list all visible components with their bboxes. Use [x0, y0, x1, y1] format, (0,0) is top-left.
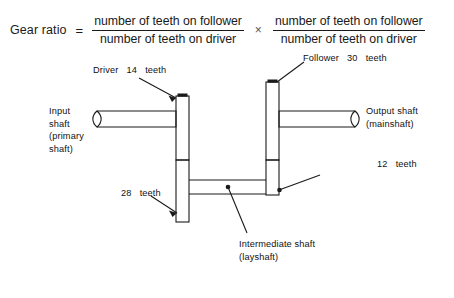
driver-gear-body [176, 96, 189, 160]
intermediate-shaft-label: Intermediate shaft (layshaft) [239, 238, 315, 263]
follower-gear-label: Follower 30 teeth [303, 52, 387, 65]
output-shaft-label: Output shaft (mainshaft) [366, 105, 418, 130]
twelve-teeth-label: 12 teeth [377, 158, 417, 171]
twelve-teeth-leader-line [279, 175, 320, 190]
driver-gear-top-cap [178, 94, 188, 97]
diagram-page: Gear ratio = number of teeth on follower… [0, 0, 454, 298]
twentyeight-teeth-label: 28 teeth [121, 187, 161, 200]
follower-gear-body [266, 82, 279, 160]
follower-gear-top-cap [268, 80, 278, 83]
output-shaft-body [279, 111, 355, 127]
output-shaft-end-cap [351, 111, 359, 127]
input-shaft-label: Input shaft (primary shaft) [49, 105, 84, 155]
follower-leader-line [277, 62, 304, 82]
input-shaft-end-cap [93, 111, 101, 127]
layshaft-28t-gear-body [176, 160, 189, 222]
mainshaft-12t-gear-body [266, 160, 279, 195]
driver-leader-line [139, 78, 176, 98]
driver-gear-label: Driver 14 teeth [93, 64, 166, 77]
input-shaft-body [97, 111, 176, 127]
twelve-teeth-leader-dot [277, 188, 282, 193]
intermediate-shaft-leader-dot [226, 185, 231, 190]
